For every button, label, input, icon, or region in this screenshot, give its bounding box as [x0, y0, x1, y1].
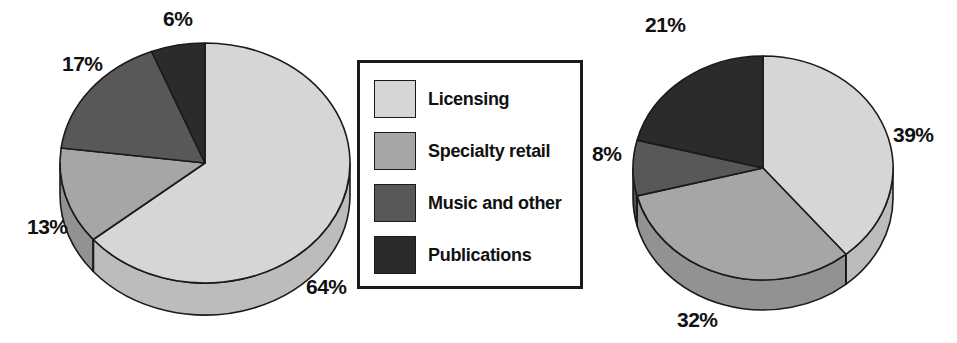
- left-pie-label-publications: 6%: [163, 8, 192, 29]
- right-pie-label-specialty: 32%: [677, 309, 718, 330]
- legend-items: Licensing Specialty retail Music and oth…: [374, 73, 574, 281]
- legend-item-music-and-other[interactable]: Music and other: [374, 177, 574, 229]
- left-pie-label-specialty: 13%: [27, 216, 68, 237]
- legend-swatch-publications: [374, 236, 416, 274]
- legend-swatch-music-and-other: [374, 184, 416, 222]
- legend-swatch-specialty-retail: [374, 132, 416, 170]
- legend-item-publications[interactable]: Publications: [374, 229, 574, 281]
- legend-label-specialty-retail: Specialty retail: [428, 141, 550, 162]
- legend-label-licensing: Licensing: [428, 89, 509, 110]
- legend-item-specialty-retail[interactable]: Specialty retail: [374, 125, 574, 177]
- legend-label-music-and-other: Music and other: [428, 193, 562, 214]
- right-pie-label-music: 8%: [592, 143, 621, 164]
- right-pie-chart: [633, 56, 893, 310]
- legend-label-publications: Publications: [428, 245, 531, 266]
- right-pie-label-publications: 21%: [645, 14, 686, 35]
- pie-chart-figure: 6% 17% 13% 64% Licensing Specialty retai…: [0, 0, 957, 343]
- legend-item-licensing[interactable]: Licensing: [374, 73, 574, 125]
- left-pie-label-licensing: 64%: [306, 276, 347, 297]
- left-pie-label-music: 17%: [62, 53, 103, 74]
- legend: Licensing Specialty retail Music and oth…: [357, 60, 583, 289]
- legend-swatch-licensing: [374, 80, 416, 118]
- right-pie-label-licensing: 39%: [893, 124, 934, 145]
